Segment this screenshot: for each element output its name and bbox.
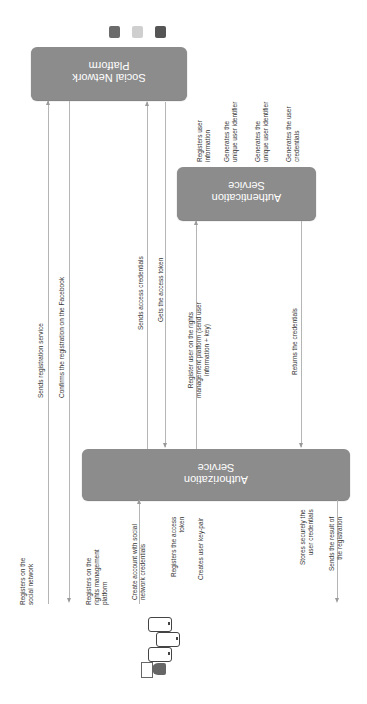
msg-gets-access-token: Gets the access token	[157, 258, 165, 322]
arrow-down	[67, 598, 71, 603]
msg-sends-registration-service: Sends registration service	[37, 323, 45, 398]
social-network-platform-label: Social Network Platform	[31, 60, 187, 84]
msg-registers-social-network: Registers on the social network	[19, 558, 35, 605]
msg-sends-access-credentials: Sends access credentials	[137, 256, 145, 330]
instagram-icon	[132, 26, 143, 38]
arrow-up	[194, 220, 198, 225]
authentication-service-label: Authentication Service	[177, 180, 316, 204]
line-returns-credentials	[301, 221, 302, 447]
smartphone-icon	[148, 647, 172, 662]
smartphone-icon	[148, 617, 172, 632]
arrow-up	[46, 100, 50, 105]
document-icon	[141, 662, 153, 678]
arrow-up	[137, 499, 141, 504]
msg-creates-key-pair: Creates user key-pair	[197, 518, 205, 580]
authentication-service-box: Authentication Service	[177, 167, 316, 220]
line-sends-access-credentials	[147, 102, 148, 449]
line-gets-access-token	[165, 102, 166, 447]
line-confirms-registration	[69, 101, 70, 601]
msg-generates-uid-2: Generates the unique user identifier	[254, 102, 270, 162]
msg-registers-user-information: Registers user information	[196, 120, 212, 162]
line-registers-social-network	[48, 101, 49, 604]
msg-generates-credentials: Generates the user credentials	[285, 106, 301, 162]
msg-register-user-rights: Register user on the rights management p…	[187, 302, 211, 398]
google-plus-icon	[155, 26, 166, 38]
msg-generates-uid-1: Generates the unique user identifier	[223, 102, 239, 162]
msg-sends-result: Sends the result of the registration	[328, 517, 344, 571]
arrow-down	[163, 443, 167, 448]
arrow-up	[145, 101, 149, 106]
msg-stores-credentials: Stores securely the user credentials	[299, 509, 315, 565]
user-icon	[152, 663, 166, 675]
authorization-service-box: Authorization Service	[82, 449, 350, 500]
msg-registers-rights-platform: Registers on the rights management platf…	[85, 549, 109, 605]
smartphone-icon	[156, 632, 180, 647]
arrow-down	[299, 443, 303, 448]
msg-confirms-registration: Confirms the registration on the Faceboo…	[58, 277, 66, 398]
msg-create-account: Create account with social network crede…	[131, 524, 147, 600]
authorization-service-label: Authorization Service	[82, 462, 350, 486]
arrow-down	[335, 598, 339, 603]
facebook-icon	[109, 26, 120, 38]
msg-returns-credentials: Returns the credentials	[291, 308, 299, 375]
msg-registers-access-token: Registers the access token	[170, 517, 186, 577]
social-network-platform-box: Social Network Platform	[31, 47, 187, 100]
